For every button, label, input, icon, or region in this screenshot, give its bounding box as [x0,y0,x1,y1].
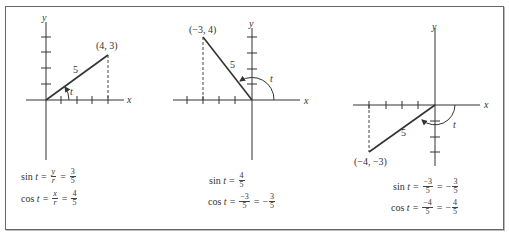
sin-function: sin [393,182,405,192]
equals-sign: = [229,176,235,186]
variable-t: t [35,172,38,182]
negative-sign: − [262,197,268,207]
negative-sign: − [445,203,451,213]
variable-t: t [37,194,40,204]
panel-quadrant-3 [353,28,480,166]
fraction-result: 35 [452,178,458,195]
angle-arc [422,105,455,125]
sin-equation-panel-1: sin t = yr = 35 [21,168,77,185]
fraction-result: 45 [71,190,77,207]
hypotenuse-label: 5 [73,64,78,75]
variable-t: t [407,182,410,192]
angle-label: t [453,119,456,130]
fraction-intermediate: −35 [239,193,250,210]
x-axis-label: x [303,95,309,106]
angle-label: t [70,86,73,97]
y-axis-label: y [248,18,254,29]
cos-function: cos [391,203,404,213]
equals-sign: = [413,203,419,213]
cos-equation-panel-1: cos t = xr = 45 [21,190,78,207]
equals-sign: = [437,203,443,213]
variable-t: t [407,203,410,213]
fraction-result: 35 [70,168,76,185]
sin-function: sin [21,172,33,182]
sin-equation-panel-3: sin t = −35 = − 35 [393,178,459,195]
fraction-intermediate: −45 [422,199,433,216]
equals-sign: = [254,197,260,207]
fraction-y-over-r: yr [51,168,57,185]
sin-equation-panel-2: sin t = 45 [209,172,246,189]
fraction-intermediate: −35 [423,178,434,195]
equals-sign: = [230,197,236,207]
panel-quadrant-2 [173,28,300,160]
y-axis-label: y [431,21,437,32]
variable-t: t [224,197,227,207]
radius-line [46,55,108,100]
equals-sign: = [62,194,68,204]
point-label: (−3, 4) [189,24,216,36]
hypotenuse-label: 5 [401,127,406,138]
radius-line [203,37,252,100]
equals-sign: = [41,172,47,182]
equals-sign: = [413,182,419,192]
cos-equation-panel-2: cos t = −35 = − 35 [208,193,276,210]
y-axis-label: y [41,12,47,23]
x-axis-label: x [483,99,489,110]
hypotenuse-label: 5 [230,59,235,70]
angle-arc [240,77,274,100]
variable-t: t [223,176,226,186]
point-label: (4, 3) [96,40,118,52]
fraction-result: 45 [452,199,458,216]
equals-sign: = [437,182,443,192]
point-label: (−4, −3) [354,156,387,168]
cos-function: cos [21,194,34,204]
sin-function: sin [209,176,221,186]
x-axis-label: x [126,94,132,105]
equals-sign: = [43,194,49,204]
angle-arc [65,87,69,100]
fraction-result: 45 [239,172,245,189]
fraction-result: 35 [269,193,275,210]
equals-sign: = [60,172,66,182]
negative-sign: − [446,182,452,192]
cos-function: cos [208,197,221,207]
cos-equation-panel-3: cos t = −45 = − 45 [391,199,459,216]
fraction-x-over-r: xr [52,190,58,207]
angle-label: t [270,73,273,84]
